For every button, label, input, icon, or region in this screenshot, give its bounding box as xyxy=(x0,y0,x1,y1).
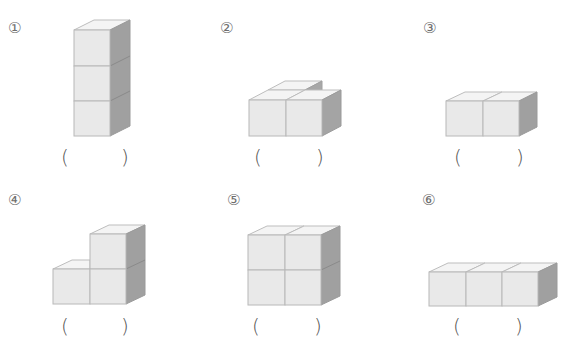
problem-6-cube-figure xyxy=(0,0,568,347)
problem-6-answer-open-paren: ( xyxy=(453,316,461,336)
problem-6-answer-close-paren: ) xyxy=(515,316,523,336)
